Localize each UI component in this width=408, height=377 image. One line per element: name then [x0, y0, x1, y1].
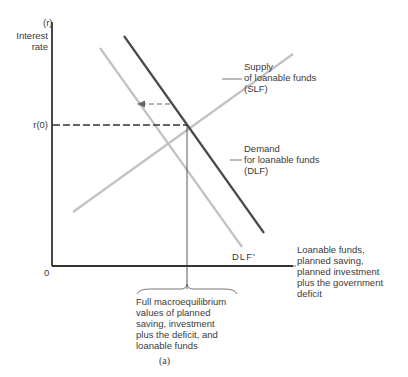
- x-axis-label: Loanable funds, planned saving, planned …: [297, 244, 383, 299]
- annotation-line: loanable funds: [136, 340, 226, 351]
- annotation-line: Full macroequilibrium: [136, 296, 226, 307]
- supply-label-line: Supply: [244, 61, 316, 72]
- x-axis-label-line: plus the government: [297, 277, 383, 288]
- demand-label-line: (DLF): [244, 165, 320, 176]
- annotation-line: saving, investment: [136, 318, 226, 329]
- y-axis-symbol: (r): [43, 17, 53, 28]
- figure-caption: (a): [159, 355, 170, 366]
- x-axis-label-line: planned saving,: [297, 255, 383, 266]
- x-axis-label-line: deficit: [297, 288, 383, 299]
- annotation-line: values of planned: [136, 307, 226, 318]
- demand-label-line: for loanable funds: [244, 154, 320, 165]
- demand-curve-dlf: [124, 36, 264, 233]
- x-axis-label-line: planned investment: [297, 266, 383, 277]
- dlf-shifted-label: DLF': [232, 251, 256, 262]
- supply-label-line: of loanable funds: [244, 72, 316, 83]
- y-axis-label-line1: Interest: [0, 30, 48, 41]
- x-axis-label-line: Loanable funds,: [297, 244, 383, 255]
- y-axis-label-line2: rate: [0, 41, 48, 52]
- demand-curve-dlf-shifted: [100, 48, 242, 247]
- supply-curve-label: Supply of loanable funds (SLF): [244, 61, 316, 94]
- demand-label-line: Demand: [244, 143, 320, 154]
- equilibrium-annotation: Full macroequilibrium values of planned …: [136, 296, 226, 351]
- annotation-line: plus the deficit, and: [136, 329, 226, 340]
- demand-curve-label: Demand for loanable funds (DLF): [244, 143, 320, 176]
- r0-label: r(0): [0, 119, 48, 130]
- origin-label: 0: [44, 267, 49, 278]
- supply-label-line: (SLF): [244, 83, 316, 94]
